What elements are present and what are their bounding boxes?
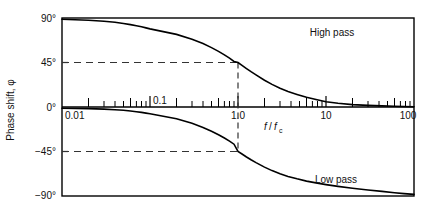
x-axis-title-subscript: c xyxy=(279,127,283,134)
x-tick-label-0.1: 0.1 xyxy=(153,95,167,106)
x-tick-label-10: 10 xyxy=(320,110,332,121)
high-pass-label: High pass xyxy=(310,27,354,38)
y-tick-label-minus45: −45° xyxy=(35,146,56,157)
x-tick-label-0.01: 0.01 xyxy=(65,110,85,121)
x-tick-label-1.0: 1.0 xyxy=(231,110,245,121)
y-tick-label-minus90: −90° xyxy=(35,190,56,201)
y-tick-label-0: 0° xyxy=(46,102,56,113)
x-axis-title-slash: / xyxy=(269,121,272,132)
phase-shift-figure: 90° 45° 0° −45° −90° 0.01 0.1 1.0 10 100… xyxy=(0,0,435,217)
x-tick-label-100: 100 xyxy=(400,110,417,121)
low-pass-label: Low pass xyxy=(315,174,357,185)
phase-shift-chart: 90° 45° 0° −45° −90° 0.01 0.1 1.0 10 100… xyxy=(0,0,435,217)
y-axis-title: Phase shift, φ xyxy=(5,79,16,141)
y-tick-label-90: 90° xyxy=(41,13,56,24)
y-tick-label-45: 45° xyxy=(41,57,56,68)
